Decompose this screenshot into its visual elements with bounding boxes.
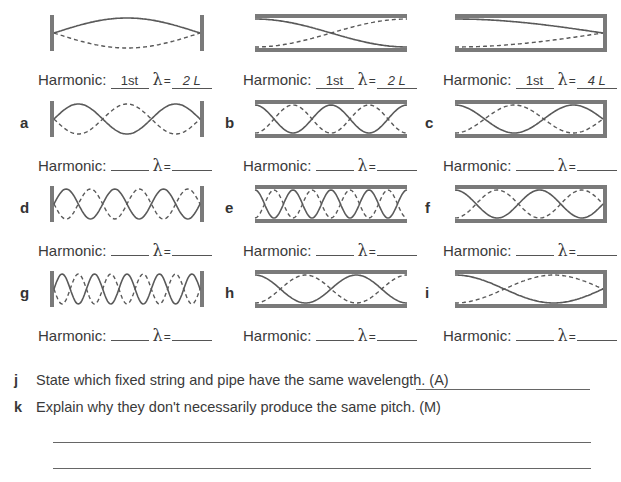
exercise-f: fHarmonic: λ= (425, 181, 621, 261)
open-pipe-diagram (253, 99, 413, 139)
example-ex-string: Harmonic: 1stλ=2 L (20, 10, 220, 90)
wavelength-answer-field[interactable] (172, 241, 212, 256)
open-pipe-diagram (253, 269, 413, 309)
equals-sign: = (164, 160, 171, 174)
harmonic-caption: Harmonic: 1stλ=2 L (38, 70, 212, 89)
exercise-b: bHarmonic: λ= (225, 96, 425, 176)
exercise-letter: i (425, 284, 429, 301)
equals-sign: = (164, 74, 171, 88)
exercise-e: eHarmonic: λ= (225, 181, 425, 261)
question-k: k Explain why they don't necessarily pro… (36, 399, 441, 415)
closed-pipe-diagram (453, 13, 613, 53)
exercise-letter: c (425, 114, 433, 131)
question-text: State which fixed string and pipe have t… (36, 372, 449, 388)
wavelength-answer-field: 2 L (172, 74, 212, 89)
harmonic-answer-field[interactable] (111, 156, 149, 171)
harmonic-label: Harmonic: (38, 242, 106, 259)
equals-sign: = (369, 330, 376, 344)
equals-sign: = (569, 330, 576, 344)
harmonic-caption: Harmonic: λ= (243, 156, 417, 175)
harmonic-caption: Harmonic: λ= (243, 241, 417, 260)
question-j: j State which fixed string and pipe have… (36, 372, 449, 388)
closed-pipe-diagram (453, 99, 613, 139)
example-ex-open-pipe: Harmonic: 1stλ=2 L (225, 10, 425, 90)
lambda-symbol: λ (358, 70, 368, 89)
harmonic-answer-field[interactable] (111, 326, 149, 341)
harmonic-answer-field[interactable] (516, 156, 554, 171)
wavelength-answer-field: 4 L (577, 74, 617, 89)
harmonic-label: Harmonic: (443, 327, 511, 344)
harmonic-caption: Harmonic: λ= (443, 326, 617, 345)
harmonic-label: Harmonic: (243, 157, 311, 174)
exercise-a: aHarmonic: λ= (20, 96, 220, 176)
harmonic-caption: Harmonic: 1stλ=4 L (443, 70, 617, 89)
lambda-symbol: λ (153, 70, 163, 89)
exercise-letter: h (225, 284, 234, 301)
harmonic-label: Harmonic: (443, 242, 511, 259)
equals-sign: = (164, 330, 171, 344)
harmonic-answer-field[interactable] (516, 326, 554, 341)
exercise-letter: f (425, 199, 430, 216)
wavelength-answer-field: 2 L (377, 74, 417, 89)
harmonic-label: Harmonic: (243, 327, 311, 344)
open-pipe-diagram (253, 184, 413, 224)
lambda-symbol: λ (358, 241, 368, 260)
equals-sign: = (369, 245, 376, 259)
harmonic-label: Harmonic: (38, 157, 106, 174)
answer-line-j[interactable] (416, 389, 590, 390)
harmonic-answer-field[interactable] (316, 241, 354, 256)
string-standing-wave-diagram (48, 99, 208, 139)
equals-sign: = (569, 245, 576, 259)
harmonic-label: Harmonic: (443, 157, 511, 174)
closed-pipe-diagram (453, 269, 613, 309)
harmonic-answer-field: 1st (316, 74, 354, 89)
exercise-i: iHarmonic: λ= (425, 266, 621, 346)
equals-sign: = (369, 74, 376, 88)
answer-line-k-1[interactable] (53, 442, 591, 443)
wavelength-answer-field[interactable] (172, 156, 212, 171)
harmonic-caption: Harmonic: λ= (443, 241, 617, 260)
lambda-symbol: λ (358, 156, 368, 175)
lambda-symbol: λ (558, 241, 568, 260)
wavelength-answer-field[interactable] (577, 156, 617, 171)
harmonic-label: Harmonic: (243, 242, 311, 259)
harmonic-caption: Harmonic: λ= (38, 241, 212, 260)
harmonic-label: Harmonic: (38, 327, 106, 344)
harmonic-answer-field: 1st (111, 74, 149, 89)
exercise-letter: g (20, 284, 29, 301)
harmonic-caption: Harmonic: λ= (243, 326, 417, 345)
answer-line-k-2[interactable] (53, 468, 591, 469)
wavelength-answer-field[interactable] (577, 326, 617, 341)
harmonic-caption: Harmonic: 1stλ=2 L (243, 70, 417, 89)
question-letter: k (14, 399, 22, 415)
harmonic-caption: Harmonic: λ= (443, 156, 617, 175)
exercise-letter: b (225, 114, 234, 131)
exercise-letter: a (20, 114, 28, 131)
exercise-letter: e (225, 199, 233, 216)
exercise-g: gHarmonic: λ= (20, 266, 220, 346)
wavelength-answer-field[interactable] (172, 326, 212, 341)
harmonic-caption: Harmonic: λ= (38, 156, 212, 175)
exercise-letter: d (20, 199, 29, 216)
wavelength-answer-field[interactable] (377, 156, 417, 171)
harmonic-answer-field[interactable] (316, 156, 354, 171)
harmonic-caption: Harmonic: λ= (38, 326, 212, 345)
harmonic-answer-field[interactable] (516, 241, 554, 256)
equals-sign: = (569, 160, 576, 174)
string-standing-wave-diagram (48, 184, 208, 224)
wavelength-answer-field[interactable] (377, 326, 417, 341)
wavelength-answer-field[interactable] (577, 241, 617, 256)
harmonic-answer-field[interactable] (316, 326, 354, 341)
lambda-symbol: λ (153, 326, 163, 345)
exercise-h: hHarmonic: λ= (225, 266, 425, 346)
lambda-symbol: λ (558, 70, 568, 89)
harmonic-answer-field[interactable] (111, 241, 149, 256)
string-standing-wave-diagram (48, 269, 208, 309)
string-standing-wave-diagram (48, 13, 208, 53)
harmonic-label: Harmonic: (243, 71, 311, 88)
wavelength-answer-field[interactable] (377, 241, 417, 256)
equals-sign: = (164, 245, 171, 259)
harmonic-label: Harmonic: (38, 71, 106, 88)
lambda-symbol: λ (558, 156, 568, 175)
closed-pipe-diagram (453, 184, 613, 224)
